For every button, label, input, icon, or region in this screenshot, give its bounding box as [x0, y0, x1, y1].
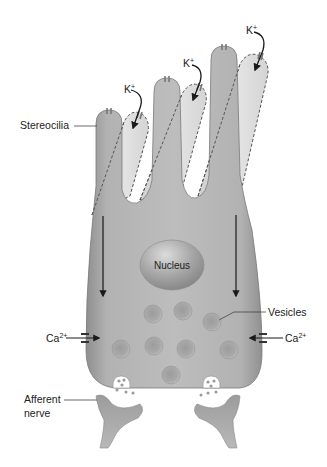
vesicle	[174, 302, 192, 320]
nucleus-label: Nucleus	[154, 260, 190, 271]
afferent-nerve-left	[96, 395, 143, 448]
vesicle	[177, 340, 195, 358]
calcium-label-left: Ca2+	[46, 332, 67, 344]
vesicle	[203, 313, 221, 331]
afferent-nerve-label-line2: nerve	[24, 407, 50, 419]
vesicle	[220, 341, 238, 359]
vesicles-label: Vesicles	[268, 306, 307, 318]
vesicle	[145, 337, 163, 355]
hair-cell-diagram: K+ K+ K+ Stereocilia Nucleus Vesicles Ca…	[0, 0, 327, 467]
potassium-label-3: K+	[246, 24, 257, 36]
vesicle	[112, 340, 130, 358]
potassium-label-2: K+	[183, 57, 194, 69]
vesicle	[162, 366, 180, 384]
stereocilia-label: Stereocilia	[20, 119, 69, 131]
afferent-nerve-right	[194, 395, 240, 448]
afferent-nerve-label: Afferent	[24, 393, 61, 405]
potassium-label-1: K+	[124, 83, 135, 95]
vesicle	[144, 305, 162, 323]
calcium-label-right: Ca2+	[285, 332, 306, 344]
